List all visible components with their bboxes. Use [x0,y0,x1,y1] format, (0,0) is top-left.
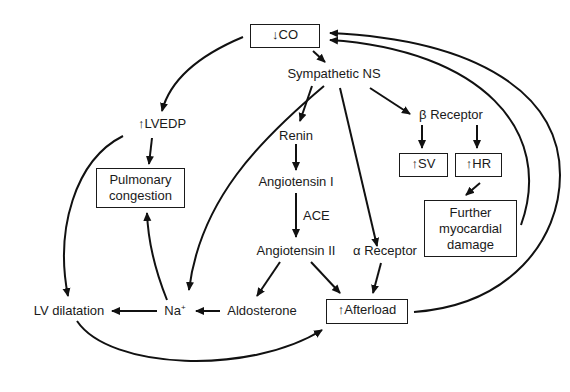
edge-lvdilatation-afterload [77,321,322,361]
label-ace: ACE [303,208,333,224]
node-further-myocardial-damage: Further myocardial damage [424,200,517,257]
node-aldosterone: Aldosterone [222,303,302,319]
node-alpha-receptor: α Receptor [346,243,424,259]
edge-na-pulmonary [147,213,167,300]
edge-sympathetic-renin [300,86,312,121]
edge-sympathetic-alpha [340,88,377,246]
edge-hr-damage [466,183,480,195]
node-increased-afterload: ↑Afterload [326,299,408,324]
node-decreased-co: ↓CO [250,24,320,48]
edge-lvedp-lvdilatation [64,136,123,296]
node-increased-hr: ↑HR [455,153,502,177]
edge-ang2-aldosterone [257,262,280,296]
node-increased-lvedp: ↑LVEDP [127,116,197,132]
node-sympathetic-ns: Sympathetic NS [281,66,387,82]
edge-alpha-afterload [373,263,381,293]
node-lv-dilatation: LV dilatation [28,303,110,319]
node-renin: Renin [276,128,316,144]
node-pulmonary-congestion: Pulmonary congestion [96,168,185,208]
edge-sympathetic-beta [370,88,410,114]
node-angiotensin-i: Angiotensin I [252,174,340,190]
alpha-symbol: α [353,243,361,258]
node-sodium: Na+ [158,303,192,319]
node-angiotensin-ii: Angiotensin II [250,243,342,259]
edge-co-lvedp [162,37,243,111]
edge-ang2-afterload [311,262,340,293]
diagram-arrows [0,0,570,392]
edge-co-sympathetic [313,51,325,62]
beta-symbol: β [419,107,426,122]
node-beta-receptor: β Receptor [412,107,490,123]
edge-lvedp-pulmonary [149,138,152,164]
node-increased-sv: ↑SV [399,153,448,177]
